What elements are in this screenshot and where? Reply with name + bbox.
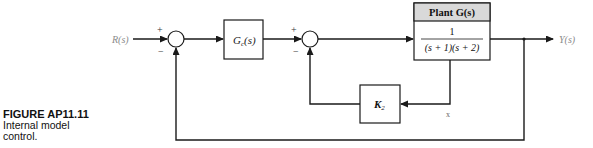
summing-junction-2	[302, 31, 318, 47]
inner-feedback-line	[310, 48, 360, 104]
junction2-minus-sign: −	[293, 46, 299, 57]
state-feedback-line	[401, 60, 450, 104]
junction1-minus-sign: −	[158, 46, 164, 57]
plant-numerator: 1	[450, 26, 455, 37]
plant-header-label: Plant G(s)	[429, 7, 475, 19]
output-label: Y(s)	[559, 34, 576, 46]
junction1-plus-sign: +	[157, 24, 163, 35]
block-diagram: R(s) + − Gc(s) + − Plant G(s) 1 (s + 1)(…	[0, 0, 593, 148]
controller-label: Gc(s)	[233, 34, 256, 48]
input-label: R(s)	[111, 34, 129, 46]
junction2-plus-sign: +	[291, 24, 297, 35]
summing-junction-1	[168, 31, 184, 47]
plant-denominator: (s + 1)(s + 2)	[425, 42, 480, 54]
state-label: x	[446, 110, 450, 119]
